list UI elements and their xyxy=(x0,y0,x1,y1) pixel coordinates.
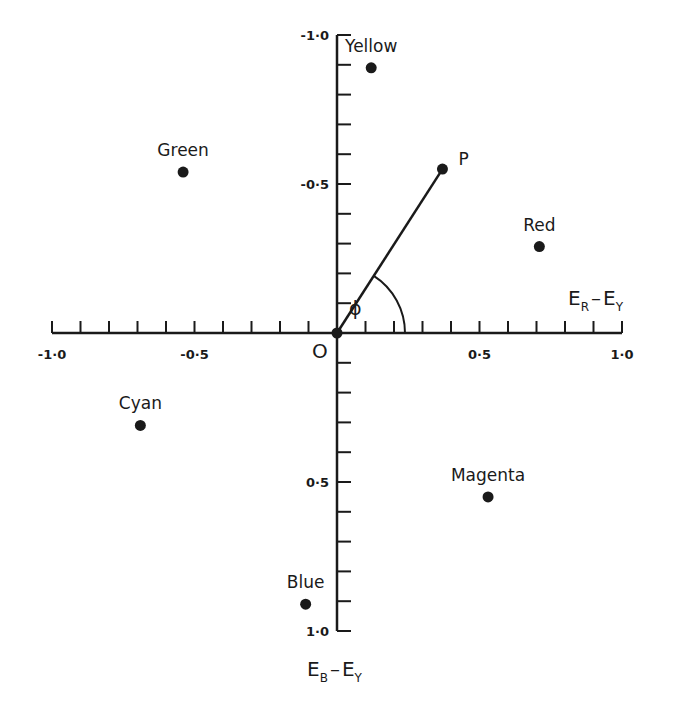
point-green-label: Green xyxy=(157,140,208,160)
point-red-dot xyxy=(534,241,545,252)
point-magenta-label: Magenta xyxy=(451,465,525,485)
x-tick-label: 0·5 xyxy=(468,347,491,362)
angle-arc xyxy=(374,276,405,333)
point-red-label: Red xyxy=(523,215,555,235)
origin-dot xyxy=(332,328,343,339)
y-tick-label: -1·0 xyxy=(301,28,329,43)
origin-label: O xyxy=(312,339,328,363)
angle-phi-label: ϕ xyxy=(349,297,362,319)
point-yellow-dot xyxy=(366,62,377,73)
y-axis-label: EB–EY xyxy=(307,657,363,685)
point-green-dot xyxy=(178,167,189,178)
y-tick-label: 0·5 xyxy=(306,475,329,490)
point-magenta-dot xyxy=(483,491,494,502)
x-tick-label: 1·0 xyxy=(610,347,633,362)
point-cyan-label: Cyan xyxy=(119,393,162,413)
point-p-label: P xyxy=(458,149,468,169)
point-blue-label: Blue xyxy=(287,572,325,592)
point-cyan-dot xyxy=(135,420,146,431)
x-tick-label: -0·5 xyxy=(180,347,208,362)
x-axis-label: ER–EY xyxy=(568,286,624,314)
vector-diagram: -1·0-0·50·51·0-1·0-0·50·51·0 ϕP YellowGr… xyxy=(0,0,686,710)
point-blue-dot xyxy=(300,599,311,610)
x-tick-label: -1·0 xyxy=(38,347,66,362)
point-p-dot xyxy=(437,164,448,175)
vector-op: ϕP xyxy=(332,149,469,338)
point-yellow-label: Yellow xyxy=(344,36,397,56)
y-tick-label: -0·5 xyxy=(301,177,329,192)
y-tick-label: 1·0 xyxy=(306,624,329,639)
